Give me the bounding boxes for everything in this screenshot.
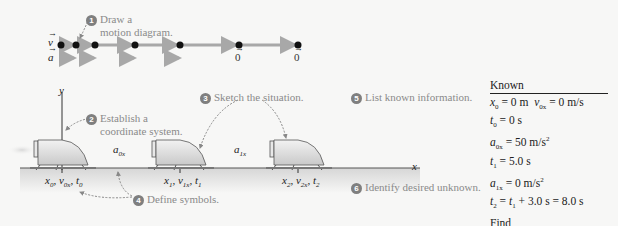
step-3-badge: 3 [200,93,211,104]
rocket-sled-0 [30,140,96,170]
step-1-label: 1Draw a motion diagram. [86,13,173,38]
acceleration-label: →a [48,51,54,63]
rocket-sled-1 [148,140,214,170]
step-5-badge: 5 [351,93,362,104]
step-5-label: 5List known information. [351,91,472,104]
step-4-badge: 4 [133,195,144,206]
known-panel: Known x0 = 0 m v0x = 0 m/s t0 = 0 s a0x … [490,79,608,226]
position-1-symbols: x1, v1x, t1 [164,174,201,189]
known-line-2: t0 = 0 s [490,114,608,133]
find-header: Find [490,217,608,226]
acceleration-0-symbol: a0x [113,143,125,158]
x-axis-label: x [412,160,417,172]
rocket-sled-2 [266,140,332,170]
zero-acceleration-label-2: →0 [294,51,300,63]
step-3-label: 3Sketch the situation. [200,91,304,104]
known-line-3: a0x = 50 m/s2 [490,133,608,155]
step-4-label: 4Define symbols. [133,193,219,206]
zero-acceleration-label-1: →0 [235,51,241,63]
step-2-badge: 2 [86,114,97,125]
known-line-1: x0 = 0 m v0x = 0 m/s [490,96,608,115]
known-line-6: t2 = t1 + 3.0 s = 8.0 s [490,195,608,214]
position-2-symbols: x2, v2x, t2 [282,174,319,189]
step-6-label: 6Identify desired unknown. [351,181,481,194]
y-axis-label: y [59,84,64,96]
acceleration-1-symbol: a1x [234,143,246,158]
position-0-symbols: x0, v0x, t0 [45,174,82,189]
known-line-4: t1 = 5.0 s [490,155,608,174]
step-2-label: 2Establish a coordinate system. [86,112,182,137]
step-1-badge: 1 [86,15,97,26]
known-line-5: a1x = 0 m/s2 [490,174,608,196]
step-6-badge: 6 [351,183,362,194]
known-header: Known [490,79,608,94]
